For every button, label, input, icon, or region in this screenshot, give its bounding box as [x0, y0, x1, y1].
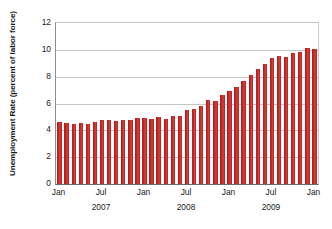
bar	[149, 119, 153, 184]
bar-series	[56, 23, 318, 184]
bar	[270, 58, 274, 184]
bar	[156, 117, 160, 184]
bar	[72, 124, 76, 184]
y-tick-label: 4	[27, 125, 51, 133]
bar	[79, 123, 83, 184]
bar	[114, 121, 118, 184]
bar	[256, 69, 260, 184]
bar	[64, 123, 68, 184]
x-tick-label: Jul	[251, 188, 291, 197]
bar	[284, 57, 288, 184]
bar	[185, 110, 189, 184]
bar	[121, 120, 125, 184]
bar	[100, 120, 104, 184]
bar	[263, 64, 267, 184]
bar	[220, 95, 224, 184]
y-tick-label: 0	[27, 179, 51, 187]
x-tick-label: Jan	[208, 188, 248, 197]
bar	[305, 48, 309, 184]
bar	[277, 56, 281, 184]
y-tick-label: 8	[27, 72, 51, 80]
bar	[312, 49, 316, 184]
y-axis-title: Unemployment Rate (percent of labor forc…	[6, 2, 20, 185]
x-year-label: 2007	[77, 203, 125, 212]
y-tick-label: 12	[27, 18, 51, 26]
x-tick-label: Jan	[293, 188, 332, 197]
bar	[93, 122, 97, 184]
x-tick-label: Jul	[166, 188, 206, 197]
bar	[241, 81, 245, 184]
x-tick-label: Jul	[81, 188, 121, 197]
bar	[249, 75, 253, 184]
bar	[57, 122, 61, 184]
bar	[199, 106, 203, 184]
bar	[164, 119, 168, 184]
bar	[227, 91, 231, 184]
bar	[107, 120, 111, 184]
x-year-label: 2009	[247, 203, 295, 212]
bar	[192, 109, 196, 184]
bar	[291, 53, 295, 184]
x-tick-label: Jan	[39, 188, 79, 197]
y-tick-label: 10	[27, 45, 51, 53]
plot-area	[55, 22, 319, 185]
bar	[128, 120, 132, 184]
bar	[171, 116, 175, 184]
bar	[298, 52, 302, 184]
y-tick-label: 6	[27, 99, 51, 107]
bar	[135, 118, 139, 184]
y-tick-label: 2	[27, 152, 51, 160]
bar	[178, 116, 182, 184]
bar	[213, 101, 217, 184]
x-tick-label: Jan	[124, 188, 164, 197]
bar	[234, 87, 238, 184]
bar	[206, 100, 210, 184]
bar	[86, 124, 90, 184]
unemployment-rate-bar-chart: Unemployment Rate (percent of labor forc…	[0, 0, 332, 229]
x-year-label: 2008	[162, 203, 210, 212]
bar	[142, 118, 146, 184]
